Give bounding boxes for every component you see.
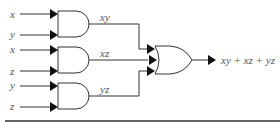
and-output-label-xy: xy — [99, 11, 110, 23]
and-gate-2 — [58, 47, 89, 73]
input-label-y1: y — [9, 28, 15, 40]
input-label-x2: x — [9, 43, 15, 55]
input-label-z2: z — [9, 100, 15, 112]
input-label-y2: y — [9, 79, 15, 91]
and-gate-1 — [58, 11, 89, 37]
input-wires — [20, 14, 52, 107]
input-label-x1: x — [9, 8, 15, 20]
or-output-arrow — [208, 55, 216, 65]
or-gate — [155, 46, 192, 74]
or-output-label: xy + xz + yz — [220, 54, 276, 66]
and-output-label-yz: yz — [99, 83, 110, 95]
or-input-arrows — [147, 44, 157, 76]
input-arrows — [50, 9, 58, 112]
input-label-z1: z — [9, 65, 15, 77]
and-gate-3 — [58, 83, 89, 109]
logic-circuit-diagram: x y x z y z xy xz yz x — [0, 0, 280, 124]
and-output-label-xz: xz — [99, 47, 110, 59]
and-output-wires — [89, 24, 148, 96]
